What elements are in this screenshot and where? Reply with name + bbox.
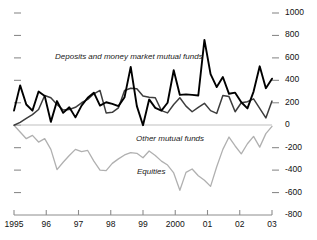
series-annotation-label: Deposits and money market mutual funds [55,52,203,61]
y-axis-tick-label: 400 [285,74,299,84]
chart-plot-area [0,0,317,240]
series-annotation-label: Other mutual funds [136,134,204,143]
series-annotation-label: Equities [137,167,165,176]
right-axis-ticks [272,13,279,193]
y-axis-tick-label: 0 [285,119,290,129]
y-axis-tick-label: -200 [285,142,302,152]
x-axis-tick-label: 97 [63,219,95,229]
x-axis-tick-label: 96 [30,219,62,229]
x-axis-tick-label: 03 [256,219,288,229]
x-axis-tick-label: 01 [192,219,224,229]
y-axis-tick-label: -600 [285,187,302,197]
x-axis-ticks [14,210,272,215]
y-axis-tick-label: -400 [285,164,302,174]
y-axis-tick-label: -800 [285,209,302,219]
y-axis-tick-label: 1000 [285,7,304,17]
x-axis-tick-label: 98 [95,219,127,229]
y-axis-tick-label: 200 [285,97,299,107]
y-axis-tick-label: 800 [285,29,299,39]
x-axis-tick-label: 99 [127,219,159,229]
y-axis-tick-label: 600 [285,52,299,62]
x-axis-tick-label: 2000 [159,219,191,229]
x-axis-tick-label: 02 [224,219,256,229]
x-axis-tick-label: 1995 [0,219,30,229]
chart-container: 10008006004002000-200-400-600-800 199596… [0,0,317,240]
